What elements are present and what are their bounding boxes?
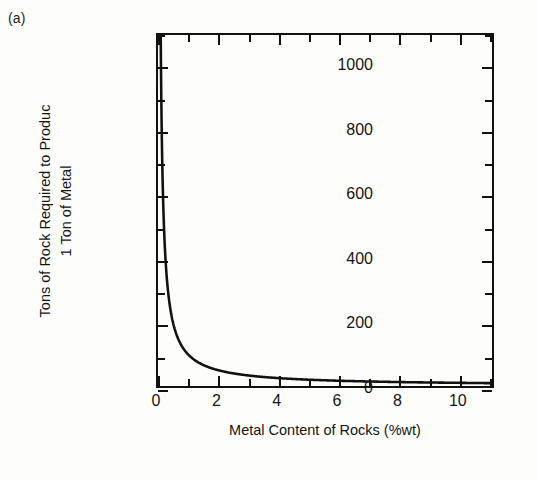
y-axis-title-line-1: Tons of Rock Required to Produc [35,104,56,317]
y-axis-title: Tons of Rock Required to Produc 1 Ton of… [20,33,92,388]
y-axis-title-line-2: 1 Ton of Metal [56,104,77,317]
x-axis-tick-label: 0 [152,392,161,410]
figure-panel-a: (a) Tons of Rock Required to Produc 1 To… [0,0,537,480]
y-axis-major-tick [158,390,168,392]
x-axis-tick-label: 2 [212,392,221,410]
plot-area [156,33,494,388]
plot-inner [158,35,492,386]
y-axis-major-tick-right [482,390,492,392]
curve-path [161,36,492,383]
x-axis-tick-label: 6 [333,392,342,410]
y-axis-title-text: Tons of Rock Required to Produc 1 Ton of… [35,104,76,317]
x-axis-tick-label: 8 [393,392,402,410]
data-curve [158,35,492,386]
x-axis-tick-label: 10 [449,392,467,410]
panel-label: (a) [8,10,26,26]
x-axis-title: Metal Content of Rocks (%wt) [156,422,494,438]
x-axis-tick-label: 4 [272,392,281,410]
